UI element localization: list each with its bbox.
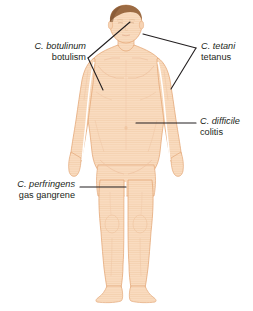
navel — [124, 126, 127, 130]
left-foot-shape — [96, 286, 123, 303]
right-foot-shape — [129, 286, 156, 303]
label-c-botulinum: C. botulinum botulism — [34, 41, 86, 63]
label-species-name: C. botulinum — [34, 41, 86, 52]
right-ear-shape — [139, 21, 143, 29]
label-species-name: C. difficile — [200, 116, 240, 127]
label-c-perfringens: C. perfringens gas gangrene — [17, 179, 75, 201]
left-ear-shape — [108, 21, 112, 29]
label-disease-name: gas gangrene — [17, 190, 75, 201]
label-c-difficile: C. difficile colitis — [200, 116, 240, 138]
anatomical-figure-diagram: C. botulinum botulism C. tetani tetanus … — [0, 0, 253, 311]
label-c-tetani: C. tetani tetanus — [201, 41, 235, 63]
label-disease-name: colitis — [200, 127, 240, 138]
label-disease-name: botulism — [34, 52, 86, 63]
label-species-name: C. tetani — [201, 41, 235, 52]
label-disease-name: tetanus — [201, 52, 235, 63]
label-species-name: C. perfringens — [17, 179, 75, 190]
